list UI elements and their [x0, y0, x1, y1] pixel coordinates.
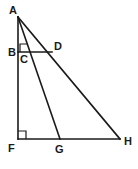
- right-angle-marker-B: [20, 44, 27, 52]
- vertex-label-A: A: [9, 5, 17, 16]
- vertex-label-B: B: [8, 47, 16, 58]
- segment-group: [18, 17, 120, 139]
- geometry-figure: A B C D F G H: [0, 0, 138, 169]
- vertex-label-F: F: [8, 143, 15, 154]
- geometry-canvas: [0, 0, 138, 169]
- vertex-label-C: C: [20, 54, 28, 65]
- vertex-label-G: G: [55, 144, 64, 155]
- vertex-label-D: D: [54, 41, 62, 52]
- segment-AH: [18, 17, 120, 139]
- vertex-label-H: H: [124, 136, 132, 147]
- segment-AG: [18, 17, 60, 139]
- right-angle-marker-F: [18, 131, 26, 139]
